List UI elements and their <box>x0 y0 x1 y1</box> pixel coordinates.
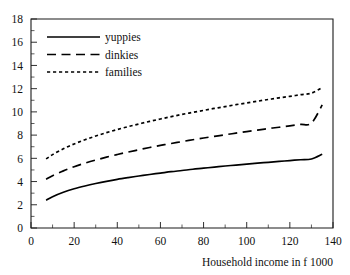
y-tick-label: 14 <box>12 60 24 72</box>
series-lines <box>46 88 322 201</box>
x-tick-label: 80 <box>198 235 210 247</box>
y-tick-label: 16 <box>12 36 24 48</box>
series-line-yuppies <box>46 154 322 200</box>
x-tick-label: 60 <box>155 235 167 247</box>
x-tick-label: 20 <box>68 235 80 247</box>
series-line-families <box>46 88 322 159</box>
chart-legend: yuppiesdinkiesfamilies <box>47 31 143 78</box>
y-tick-label: 18 <box>12 13 24 25</box>
y-tick-label: 8 <box>17 129 23 141</box>
x-tick-label: 120 <box>281 235 299 247</box>
y-tick-label: 2 <box>17 199 23 211</box>
y-tick-label: 6 <box>17 153 23 165</box>
y-tick-label: 10 <box>12 106 24 118</box>
legend-label-dinkies: dinkies <box>105 49 139 61</box>
legend-label-yuppies: yuppies <box>105 31 141 44</box>
series-line-dinkies <box>46 105 322 179</box>
x-tick-label: 0 <box>28 235 34 247</box>
x-tick-label: 100 <box>238 235 256 247</box>
y-tick-label: 12 <box>12 83 24 95</box>
axis-tick-labels: 020406080100120140024681012141618 <box>12 13 342 247</box>
y-tick-label: 4 <box>17 176 23 188</box>
axis-ticks <box>31 19 333 228</box>
y-tick-label: 0 <box>17 222 23 234</box>
x-tick-label: 40 <box>112 235 124 247</box>
x-tick-label: 140 <box>324 235 342 247</box>
line-chart: 020406080100120140024681012141618 yuppie… <box>0 0 350 275</box>
chart-container: 020406080100120140024681012141618 yuppie… <box>0 0 350 275</box>
legend-label-families: families <box>105 66 143 78</box>
x-axis-title: Household income in f 1000 <box>202 256 333 268</box>
plot-frame <box>31 19 333 228</box>
